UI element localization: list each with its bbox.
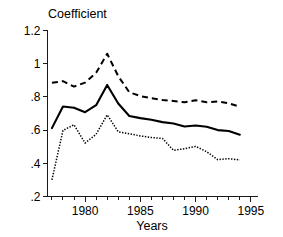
x-tick-label: 1980 — [72, 204, 99, 218]
x-tick-label: 1990 — [182, 204, 209, 218]
y-tick-label: .4 — [30, 157, 40, 171]
x-tick-label: 1985 — [127, 204, 154, 218]
y-tick-label: 1.2 — [24, 24, 41, 38]
y-tick-label: .6 — [30, 123, 40, 137]
y-tick-label: .2 — [30, 190, 40, 204]
y-axis-title: Coefficient — [48, 7, 107, 21]
coefficient-line-chart: Coefficient 1.21.8.6.4.2 198019851990199… — [0, 0, 283, 237]
x-axis-title-text: Years — [136, 219, 168, 233]
chart-figure: Coefficient 1.21.8.6.4.2 198019851990199… — [0, 0, 283, 237]
y-tick-label: .8 — [30, 90, 40, 104]
y-tick-label: 1 — [34, 57, 41, 71]
y-axis-title-text: Coefficient — [48, 7, 107, 21]
x-tick-label: 1995 — [238, 204, 265, 218]
x-axis-title: Years — [136, 219, 168, 233]
